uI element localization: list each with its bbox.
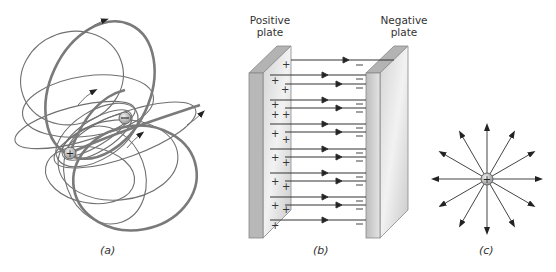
svg-text:+: +: [282, 134, 290, 145]
svg-text:+: +: [282, 59, 290, 70]
panel-a-dipole: +: [7, 4, 205, 240]
svg-text:+: +: [282, 109, 290, 120]
minus-symbols: [356, 65, 363, 224]
negative-plate-label-line1: Negative: [372, 14, 436, 26]
svg-text:+: +: [282, 181, 290, 192]
panel-b-parallel-plates: +++ +++ +++ +++ +++: [249, 46, 408, 238]
svg-text:+: +: [271, 176, 279, 187]
svg-text:+: +: [483, 174, 491, 185]
negative-plate: [366, 46, 408, 238]
svg-text:+: +: [282, 157, 290, 168]
svg-text:+: +: [271, 109, 279, 120]
svg-text:+: +: [271, 75, 279, 86]
positive-plate-label-line1: Positive: [240, 14, 300, 26]
svg-text:+: +: [271, 220, 279, 231]
negative-plate-label-line2: plate: [372, 26, 436, 38]
svg-text:+: +: [281, 84, 289, 95]
positive-plate-label: Positive plate: [240, 14, 300, 38]
svg-text:+: +: [271, 200, 279, 211]
caption-c: (c): [479, 244, 494, 257]
positive-plate-label-line2: plate: [240, 26, 300, 38]
svg-text:+: +: [282, 204, 290, 215]
panel-c-point-charge: +: [435, 127, 539, 231]
caption-b: (b): [313, 244, 329, 257]
svg-text:+: +: [66, 148, 74, 159]
svg-text:+: +: [271, 152, 279, 163]
caption-a: (a): [100, 244, 115, 257]
figure-canvas: +: [0, 0, 556, 272]
svg-text:+: +: [271, 128, 279, 139]
negative-plate-label: Negative plate: [372, 14, 436, 38]
